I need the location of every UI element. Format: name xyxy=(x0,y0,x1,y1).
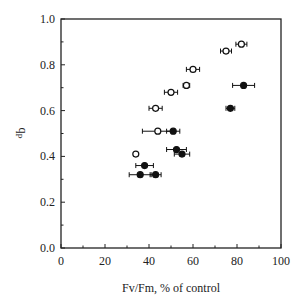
filled-data-point xyxy=(167,128,180,134)
y-tick-label: 0.6 xyxy=(40,104,55,118)
open-data-point xyxy=(183,82,190,88)
filled-circle-marker xyxy=(227,105,233,111)
scatter-chart: 020406080100 0.00.20.40.60.81.0 Fv/Fm, %… xyxy=(0,0,300,299)
open-circle-marker xyxy=(168,89,174,95)
open-data-point xyxy=(164,89,177,95)
y-tick-label: 0.2 xyxy=(40,195,55,209)
open-circle-marker xyxy=(183,82,189,88)
open-circle-marker xyxy=(190,66,196,72)
y-tick-label: 0.4 xyxy=(40,149,55,163)
open-circle-marker xyxy=(153,105,159,111)
open-data-point xyxy=(133,151,139,157)
open-circle-marker xyxy=(223,48,229,54)
x-axis-title: Fv/Fm, % of control xyxy=(122,281,221,295)
filled-data-point xyxy=(150,172,161,178)
x-tick-label: 20 xyxy=(99,254,111,268)
open-data-point xyxy=(149,105,162,111)
filled-circle-marker xyxy=(179,151,185,157)
filled-circle-marker xyxy=(142,163,148,169)
filled-circle-marker xyxy=(153,172,159,178)
filled-data-point xyxy=(129,172,151,178)
open-data-point xyxy=(221,48,232,54)
x-tick-label: 0 xyxy=(58,254,64,268)
open-data-point xyxy=(236,41,247,47)
x-tick-label: 60 xyxy=(187,254,199,268)
open-data-point xyxy=(186,66,199,72)
x-tick-label: 100 xyxy=(272,254,290,268)
filled-data-point xyxy=(233,82,255,88)
filled-data-point xyxy=(136,163,154,169)
y-tick-label: 0.8 xyxy=(40,58,55,72)
x-tick-label: 80 xyxy=(231,254,243,268)
open-circle-marker xyxy=(155,128,161,134)
y-tick-label: 1.0 xyxy=(40,12,55,26)
open-circle-marker xyxy=(238,41,244,47)
filled-circle-marker xyxy=(137,172,143,178)
open-circle-marker xyxy=(133,151,139,157)
filled-circle-marker xyxy=(170,128,176,134)
x-tick-label: 40 xyxy=(143,254,155,268)
y-tick-label: 0.0 xyxy=(40,241,55,255)
y-axis-title: qP xyxy=(14,127,30,138)
y-axis-title-subscript: P xyxy=(14,133,24,138)
filled-circle-marker xyxy=(241,82,247,88)
data-points xyxy=(129,41,254,178)
filled-data-point xyxy=(226,105,235,111)
